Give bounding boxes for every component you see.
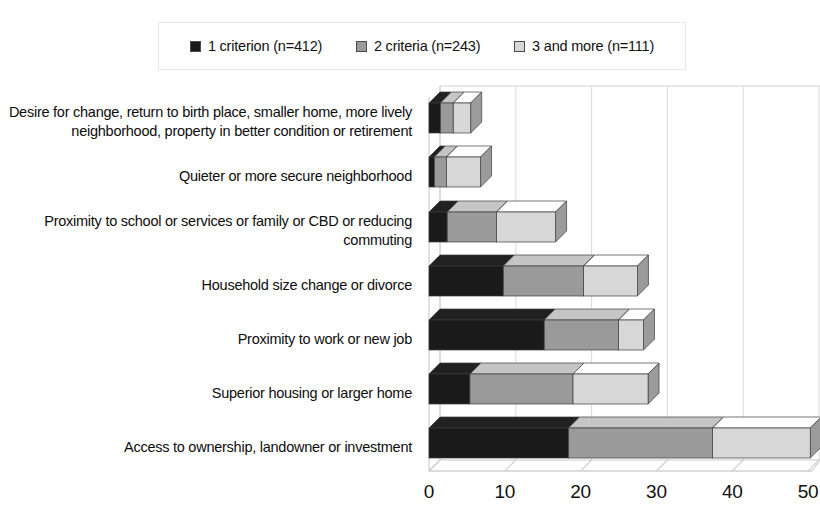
bar-segment-r2-s2 (496, 201, 566, 242)
category-label-3: Household size change or divorce (8, 276, 412, 295)
bar-segment-front-face (573, 374, 648, 404)
tick-label-50: 50 (788, 481, 820, 503)
category-label-6: Access to ownership, landowner or invest… (8, 438, 412, 457)
bar-segment-r4-s2 (619, 309, 655, 350)
tick-label-10: 10 (485, 481, 525, 503)
tick-label-0: 0 (409, 481, 449, 503)
bar-segment-top-face (503, 255, 594, 266)
bar-group-row-6 (429, 417, 820, 458)
bar-segment-r4-s1 (544, 309, 629, 350)
tick-label-30: 30 (636, 481, 676, 503)
bar-segment-front-face (429, 103, 440, 133)
bar-segment-front-face (447, 212, 496, 242)
floor-depth-tie-10 (505, 460, 516, 471)
bar-segment-top-face (544, 309, 629, 320)
floor-depth-tie-0 (429, 460, 440, 471)
bar-segment-front-face (712, 428, 810, 458)
bar-segment-front-face (446, 157, 480, 187)
bar-segment-r4-s0 (429, 309, 555, 350)
bar-segment-r3-s1 (503, 255, 594, 296)
category-label-0: Desire for change, return to birth place… (8, 103, 412, 141)
bar-segment-r5-s2 (573, 363, 659, 404)
floor-depth-tie-40 (732, 460, 743, 471)
stacked-bar-chart: 1 criterion (n=412)2 criteria (n=243)3 a… (0, 0, 820, 526)
bar-segment-r3-s2 (584, 255, 649, 296)
bar-segment-front-face (429, 428, 568, 458)
bar-segment-front-face (619, 320, 644, 350)
bar-segment-top-face (429, 417, 579, 428)
bar-segment-r3-s0 (429, 255, 514, 296)
bar-segment-r6-s1 (568, 417, 723, 458)
bar-group-row-4 (429, 309, 655, 350)
bar-segment-r1-s2 (446, 146, 491, 187)
bar-group-row-2 (429, 201, 567, 242)
bar-segment-top-face (496, 201, 566, 212)
tick-label-40: 40 (712, 481, 752, 503)
category-label-2: Proximity to school or services or famil… (8, 212, 412, 250)
bar-segment-front-face (429, 212, 447, 242)
bar-group-row-5 (429, 363, 659, 404)
category-label-4: Proximity to work or new job (8, 330, 412, 349)
bar-segment-top-face (573, 363, 659, 374)
bar-segment-front-face (496, 212, 555, 242)
bar-segment-top-face (568, 417, 723, 428)
floor-depth-tie-30 (656, 460, 667, 471)
category-label-5: Superior housing or larger home (8, 384, 412, 403)
bar-segment-top-face (712, 417, 820, 428)
bar-group-row-3 (429, 255, 648, 296)
bar-group-row-1 (429, 146, 492, 187)
bar-segment-front-face (568, 428, 712, 458)
bar-group-row-0 (429, 92, 482, 133)
bar-segment-front-face (503, 266, 583, 296)
bar-segment-front-face (584, 266, 638, 296)
bar-segment-r5-s1 (470, 363, 584, 404)
bar-segment-front-face (470, 374, 573, 404)
bar-segment-front-face (434, 157, 446, 187)
bar-segment-r6-s0 (429, 417, 579, 458)
floor-depth-tie-20 (581, 460, 592, 471)
bar-segment-front-face (429, 157, 434, 187)
bar-segment-front-face (429, 320, 544, 350)
category-label-1: Quieter or more secure neighborhood (8, 167, 412, 186)
bar-segment-r6-s2 (712, 417, 820, 458)
bar-segment-top-face (429, 309, 555, 320)
category-axis-labels: Desire for change, return to birth place… (8, 86, 420, 476)
bar-segment-front-face (429, 374, 470, 404)
tick-label-20: 20 (561, 481, 601, 503)
bar-segment-top-face (429, 255, 514, 266)
bar-segment-front-face (440, 103, 453, 133)
bar-segment-front-face (544, 320, 618, 350)
bar-segment-top-face (470, 363, 584, 374)
bar-segment-front-face (453, 103, 470, 133)
bar-segment-front-face (429, 266, 503, 296)
